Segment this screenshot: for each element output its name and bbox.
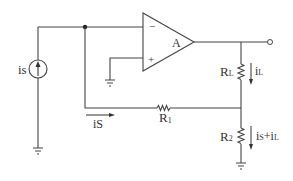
current-source <box>29 60 47 78</box>
rl-label: RL <box>220 64 234 79</box>
r2-resistor <box>238 128 244 144</box>
opamp-minus-label: − <box>149 20 155 32</box>
sum-current-label: iS+iL <box>256 129 279 143</box>
is-current-label: iS <box>93 117 103 131</box>
output-terminal <box>268 40 273 45</box>
il-current-label: iL <box>255 64 263 78</box>
r2-label: R2 <box>220 129 233 144</box>
arrow-down-icon <box>249 79 253 85</box>
ground-icon <box>33 148 43 154</box>
rl-resistor <box>238 64 244 80</box>
opamp: − + A <box>143 13 194 71</box>
arrow-right-icon <box>109 113 115 117</box>
plus-input-wire <box>110 58 143 80</box>
circuit-diagram: is R1 iS − + A RL iL R2 iS+iL <box>0 0 293 181</box>
ground-icon <box>236 163 246 169</box>
ground-icon <box>105 80 115 86</box>
current-source-label: is <box>18 62 27 77</box>
arrow-down-icon <box>249 144 253 150</box>
opamp-plus-label: + <box>148 53 154 65</box>
opamp-gain-label: A <box>172 36 181 50</box>
r1-label: R1 <box>159 110 172 125</box>
